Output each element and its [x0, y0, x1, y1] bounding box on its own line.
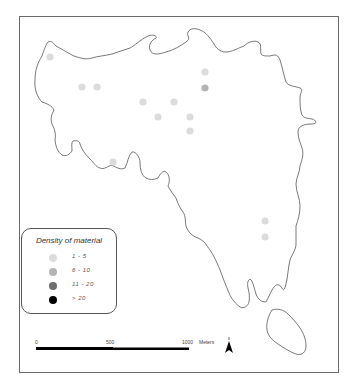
density-point[interactable] [186, 113, 193, 120]
map-canvas [0, 0, 356, 389]
legend-label: > 20 [72, 295, 86, 301]
density-points [46, 53, 268, 240]
density-point[interactable] [93, 83, 100, 90]
legend-title: Density of material [22, 236, 116, 245]
density-point[interactable] [109, 158, 116, 165]
scale-unit: Meters [199, 339, 214, 345]
legend-item: 6 - 10 [22, 267, 118, 279]
density-point[interactable] [186, 127, 193, 134]
density-point[interactable] [261, 233, 268, 240]
density-point[interactable] [78, 83, 85, 90]
legend-item: 1 - 5 [22, 253, 118, 265]
scale-tick-0: 0 [35, 339, 38, 345]
density-point[interactable] [154, 113, 161, 120]
legend-item: > 20 [22, 295, 118, 307]
legend-label: 1 - 5 [72, 253, 87, 259]
density-point[interactable] [46, 53, 53, 60]
legend-label: 11 - 20 [72, 281, 94, 287]
density-point[interactable] [170, 98, 177, 105]
island-outline [267, 309, 306, 354]
legend-swatch [49, 296, 57, 304]
scale-bar [36, 347, 189, 350]
density-point[interactable] [261, 217, 268, 224]
density-point[interactable] [201, 68, 208, 75]
density-point[interactable] [201, 84, 208, 91]
legend-swatch [49, 268, 57, 276]
scale-tick-500: 500 [106, 339, 114, 345]
legend-item: 11 - 20 [22, 281, 118, 293]
scale-tick-1000: 1000 [182, 339, 193, 345]
north-arrow-icon [225, 337, 233, 353]
legend-label: 6 - 10 [72, 267, 90, 273]
density-point[interactable] [139, 98, 146, 105]
legend-swatch [49, 282, 57, 290]
map-legend: Density of material 1 - 5 6 - 10 11 - 20… [21, 228, 117, 314]
legend-swatch [49, 254, 57, 262]
